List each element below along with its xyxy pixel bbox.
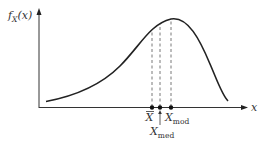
x-axis bbox=[39, 105, 248, 110]
mean-point bbox=[150, 105, 154, 109]
mode-label: Xmod bbox=[164, 111, 189, 126]
median-arrow-icon bbox=[158, 110, 162, 114]
mode-point bbox=[169, 105, 173, 109]
y-axis-label: fX(x) bbox=[7, 9, 32, 24]
x-axis-label: x bbox=[251, 101, 258, 114]
mean-label: X bbox=[145, 111, 155, 124]
median-point bbox=[158, 105, 162, 109]
median-label: Xmed bbox=[149, 125, 174, 140]
svg-text:X: X bbox=[145, 111, 155, 124]
density-curve bbox=[46, 19, 228, 102]
dashed-lines bbox=[152, 19, 171, 107]
y-axis bbox=[37, 8, 42, 108]
x-axis-arrow-icon bbox=[241, 105, 248, 110]
y-axis-arrow-icon bbox=[37, 8, 42, 15]
density-diagram: fX(x) x X Xmed Xmod bbox=[0, 0, 260, 143]
